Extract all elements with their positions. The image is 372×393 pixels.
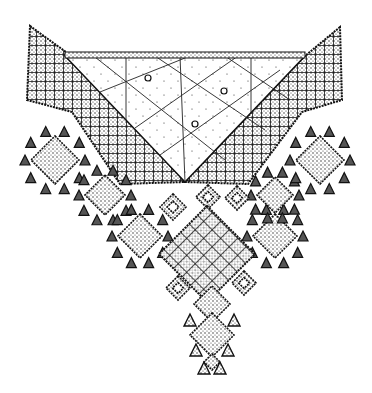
- triangle-fringe: [74, 137, 84, 147]
- triangle-fringe: [293, 247, 303, 257]
- triangle-fringe: [41, 126, 51, 136]
- cluster-core: [31, 136, 79, 184]
- triangle-fringe: [144, 204, 154, 214]
- cluster-core: [118, 214, 162, 258]
- cluster-core: [257, 177, 293, 213]
- triangle-fringe: [247, 215, 257, 225]
- triangle-fringe: [263, 167, 273, 177]
- cluster-core: [296, 136, 344, 184]
- triangle-fringe: [251, 204, 261, 214]
- triangle-fringe: [126, 258, 136, 268]
- triangle-fringe: [144, 258, 154, 268]
- triangle-fringe: [345, 155, 355, 165]
- triangle-fringe: [184, 314, 196, 326]
- triangle-fringe: [80, 155, 90, 165]
- triangle-fringe: [294, 190, 304, 200]
- triangle-fringe: [306, 126, 316, 136]
- triangle-fringe: [291, 173, 301, 183]
- triangle-fringe: [126, 190, 136, 200]
- triangle-fringe: [158, 215, 168, 225]
- triangle-fringe: [261, 258, 271, 268]
- triangle-fringe: [324, 126, 334, 136]
- triangle-fringe: [339, 137, 349, 147]
- triangle-fringe: [92, 215, 102, 225]
- triangle-fringe: [107, 231, 117, 241]
- triangle-fringe: [242, 231, 252, 241]
- triangle-fringe: [306, 184, 316, 194]
- triangle-fringe: [285, 155, 295, 165]
- triangle-fringe: [163, 231, 173, 241]
- triangle-fringe: [26, 173, 36, 183]
- triangle-fringe: [74, 190, 84, 200]
- triangle-fringe: [293, 215, 303, 225]
- top-band: [65, 52, 305, 58]
- triangle-fringe: [277, 167, 287, 177]
- triangle-fringe: [92, 165, 102, 175]
- triangle-fringe: [339, 173, 349, 183]
- triangle-fringe: [59, 126, 69, 136]
- triangle-fringe: [59, 184, 69, 194]
- triangle-fringe: [324, 184, 334, 194]
- triangle-fringe: [26, 137, 36, 147]
- triangle-fringe: [20, 155, 30, 165]
- triangle-fringe: [79, 205, 89, 215]
- triangle-fringe: [289, 204, 299, 214]
- triangle-fringe: [41, 184, 51, 194]
- triangle-fringe: [112, 247, 122, 257]
- textile-pattern-drawing: [0, 0, 372, 393]
- triangle-fringe: [228, 314, 240, 326]
- triangle-fringe: [291, 137, 301, 147]
- bottom-pendant: [184, 286, 240, 374]
- triangle-fringe: [279, 258, 289, 268]
- triangle-fringe: [298, 231, 308, 241]
- cluster-core: [253, 214, 297, 258]
